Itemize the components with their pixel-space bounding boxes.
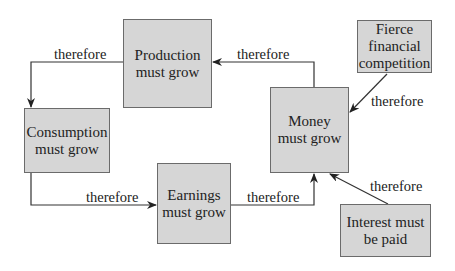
node-text: competition <box>359 55 431 72</box>
edge-label: therefore <box>370 178 422 194</box>
node-earnings: Earnings must grow <box>157 163 231 244</box>
node-text: Interest must <box>347 214 425 231</box>
node-money: Money must grow <box>270 87 349 173</box>
edge-label: therefore <box>237 46 289 62</box>
node-text: must grow <box>135 64 201 81</box>
node-text: Earnings <box>162 187 226 204</box>
node-fierce-financial-competition: Fierce financial competition <box>357 20 432 73</box>
node-text: Money <box>278 113 342 130</box>
node-text: must grow <box>278 130 342 147</box>
node-interest-must-be-paid: Interest must be paid <box>340 204 431 257</box>
node-production: Production must grow <box>123 19 212 108</box>
node-text: must grow <box>162 204 226 221</box>
node-text: be paid <box>347 231 425 248</box>
edge-label: therefore <box>54 46 106 62</box>
arrow-production-to-consumption <box>31 62 123 107</box>
node-text: Production <box>135 47 201 64</box>
node-consumption: Consumption must grow <box>24 108 110 173</box>
node-text: financial <box>359 38 431 55</box>
node-text: must grow <box>27 141 108 158</box>
edge-label: therefore <box>247 189 299 205</box>
edge-label: therefore <box>371 93 423 109</box>
node-text: Consumption <box>27 124 108 141</box>
arrow-money-to-production <box>213 62 314 87</box>
edge-label: therefore <box>86 189 138 205</box>
diagram-canvas: Production must grow Consumption must gr… <box>0 0 455 271</box>
node-text: Fierce <box>359 21 431 38</box>
